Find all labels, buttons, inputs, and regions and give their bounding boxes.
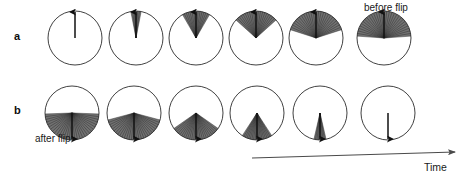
distribution-circle: [230, 86, 284, 140]
distribution-circle: [169, 86, 223, 140]
panel-label-b: b: [14, 104, 21, 116]
time-axis-line: [252, 152, 455, 158]
distribution-circle: [293, 86, 347, 140]
circles-layer: [45, 11, 415, 140]
distribution-circle: [361, 86, 415, 140]
distribution-circle: [289, 11, 343, 65]
distribution-circle: [48, 11, 102, 65]
distribution-circle: [357, 11, 411, 65]
distribution-circle: [45, 86, 99, 140]
flip-dynamics-figure: [0, 0, 467, 179]
distribution-circle: [229, 11, 283, 65]
annotation-after-flip: after flip: [35, 133, 71, 144]
distribution-circle: [107, 86, 161, 140]
annotation-before-flip: before flip: [364, 2, 408, 13]
time-axis-label: Time: [424, 161, 447, 173]
distribution-circle: [169, 11, 223, 65]
time-axis: [252, 152, 455, 158]
distribution-circle: [109, 11, 163, 65]
panel-a-circles: [48, 11, 411, 65]
panel-label-a: a: [14, 30, 20, 42]
panel-b-circles: [45, 86, 415, 140]
